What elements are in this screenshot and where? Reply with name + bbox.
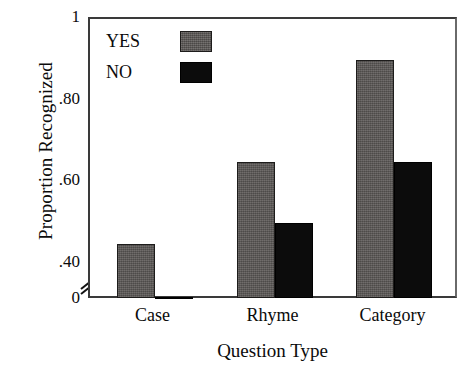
legend-label-no: NO	[106, 62, 180, 83]
y-tick-label: 0	[22, 289, 80, 306]
bar-chart-figure: Proportion Recognized 0.40.60.801 YES NO…	[0, 0, 475, 378]
x-axis-title: Question Type	[88, 340, 457, 362]
y-tick-label: 1	[22, 8, 80, 25]
legend-item-yes: YES	[106, 26, 271, 57]
legend-item-no: NO	[106, 57, 271, 88]
y-axis-title: Proportion Recognized	[35, 21, 57, 281]
x-tick-label-rhyme: Rhyme	[213, 305, 333, 326]
y-tick-label: .60	[22, 171, 80, 188]
legend-swatch-no	[180, 62, 212, 83]
x-tick-label-case: Case	[93, 305, 213, 326]
bar-category-yes	[356, 60, 394, 298]
y-tick-label: .80	[22, 90, 80, 107]
y-tick-label: .40	[22, 253, 80, 270]
plot-area: YES NO	[88, 17, 457, 298]
bar-rhyme-no	[275, 223, 313, 298]
x-tick-label-category: Category	[332, 305, 452, 326]
legend-swatch-yes	[180, 31, 212, 52]
bar-category-no	[394, 162, 432, 298]
bar-rhyme-yes	[237, 162, 275, 298]
legend: YES NO	[106, 26, 271, 88]
legend-label-yes: YES	[106, 31, 180, 52]
bar-case-no	[155, 297, 193, 299]
bar-case-yes	[117, 244, 155, 298]
